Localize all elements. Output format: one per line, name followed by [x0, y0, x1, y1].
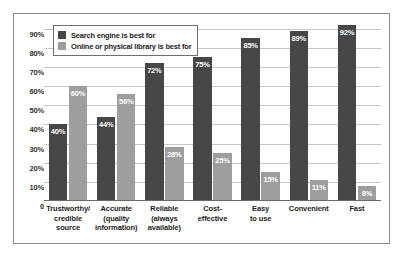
bar-value-label: 11%: [310, 183, 329, 192]
x-axis-category-label: Fast: [333, 204, 381, 214]
bar-value-label: 60%: [69, 89, 88, 98]
bar-value-label: 15%: [261, 175, 280, 184]
x-axis-category-label: Reliable(alwaysavailable): [140, 204, 188, 233]
bar-value-label: 28%: [165, 150, 184, 159]
bar-value-label: 56%: [117, 97, 136, 106]
x-axis-category-label: Convenient: [285, 204, 333, 214]
bar: 72%: [145, 63, 164, 201]
bar-value-label: 92%: [338, 28, 357, 37]
bar-value-label: 89%: [290, 34, 309, 43]
y-axis: 90%80%70%60%50%40%30%20%10%0: [14, 19, 44, 201]
legend-item: Search engine is best for: [58, 30, 191, 40]
bar: 89%: [290, 31, 309, 202]
x-axis-category-labels: Trustworthy/crediblesourceAccurate(quali…: [44, 204, 381, 246]
bar: 85%: [241, 38, 260, 201]
bar-value-label: 25%: [213, 156, 232, 165]
bar: 60%: [69, 86, 88, 201]
bar: 92%: [338, 25, 357, 201]
bar: 40%: [49, 124, 68, 201]
legend-swatch-search-engine: [58, 31, 66, 39]
bar: 28%: [165, 147, 184, 201]
x-axis-category-label: Trustworthy/crediblesource: [44, 204, 92, 233]
x-axis-category-label: Accurate(qualityinformation): [92, 204, 140, 233]
bar-value-label: 72%: [145, 66, 164, 75]
bar: 15%: [261, 172, 280, 201]
bar: 56%: [117, 94, 136, 201]
bar: 75%: [193, 57, 212, 201]
legend-label-search-engine: Search engine is best for: [71, 31, 155, 40]
bar-value-label: 85%: [241, 41, 260, 50]
bar: 8%: [358, 186, 377, 201]
legend-label-library: Online or physical library is best for: [71, 42, 191, 51]
bar: 11%: [310, 180, 329, 201]
bar-value-label: 40%: [49, 127, 68, 136]
legend-item: Online or physical library is best for: [58, 41, 191, 51]
bar-value-label: 44%: [97, 120, 116, 129]
x-axis-category-label: Cost-effective: [188, 204, 236, 223]
x-axis-category-label: Easyto use: [237, 204, 285, 223]
chart-legend: Search engine is best for Online or phys…: [53, 25, 198, 56]
chart-frame: 90%80%70%60%50%40%30%20%10%0 40%60%44%56…: [13, 13, 390, 244]
bar: 44%: [97, 117, 116, 201]
bar: 25%: [213, 153, 232, 201]
legend-swatch-library: [58, 42, 66, 50]
bar-value-label: 8%: [358, 189, 377, 198]
bar-value-label: 75%: [193, 60, 212, 69]
axis-baseline: [44, 200, 381, 201]
